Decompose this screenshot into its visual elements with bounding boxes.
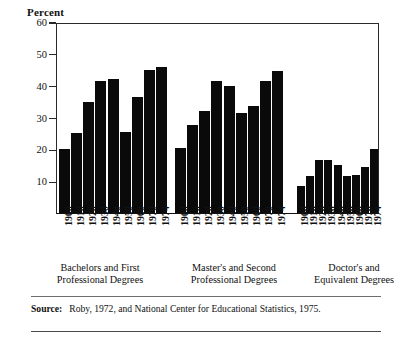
- bar: [370, 149, 378, 213]
- group-caption-2: Master's and SecondProfessional Degrees: [158, 262, 310, 287]
- bar: [248, 106, 259, 213]
- x-tick-label-cell: 1974: [369, 215, 377, 259]
- x-tick-label-cell: 1960: [351, 215, 359, 259]
- bar: [59, 149, 70, 213]
- plot-area: [56, 23, 379, 214]
- source-rule-top: [31, 296, 381, 297]
- group-caption-line2: Professional Degrees: [158, 274, 310, 286]
- x-tick-label-cell: 1950: [235, 215, 246, 259]
- bar: [120, 132, 131, 213]
- bars-container: [57, 24, 378, 213]
- x-tick-label-cell: 1960: [247, 215, 258, 259]
- figure-chart-percent-degrees: Percent 102030405060 1900191019201930194…: [0, 0, 403, 338]
- bar: [95, 81, 106, 213]
- y-tick-label: 60: [37, 16, 48, 29]
- x-tick-label: 1974: [161, 206, 171, 226]
- bar-group-3: [297, 24, 378, 213]
- y-tick-label: 20: [37, 143, 48, 156]
- bar: [236, 113, 247, 213]
- source-label: Source:: [31, 303, 62, 314]
- bar: [260, 81, 271, 213]
- group-captions: Bachelors and FirstProfessional DegreesM…: [30, 262, 385, 290]
- x-tick-label-cell: 1920: [82, 215, 93, 259]
- source-rule-bottom: [31, 331, 381, 332]
- bar-group-1: [59, 24, 167, 213]
- y-tick-mark: [49, 182, 56, 183]
- bar: [224, 86, 235, 213]
- y-tick-mark: [49, 54, 56, 55]
- x-tick-label-cell: 1900: [58, 215, 69, 259]
- x-tick-label-cell: 1930: [210, 215, 221, 259]
- x-tick-label-cell: 1900: [174, 215, 185, 259]
- x-tick-label-cell: 1900: [296, 215, 304, 259]
- bar: [156, 67, 167, 213]
- group-caption-line1: Bachelors and First: [30, 262, 170, 274]
- x-tick-label-cell: 1940: [107, 215, 118, 259]
- x-tick-label-cell: 1930: [94, 215, 105, 259]
- y-axis: 102030405060: [0, 23, 56, 214]
- y-tick-label: 10: [37, 175, 48, 188]
- bar-group-2: [175, 24, 283, 213]
- x-tick-label-cell: 1910: [305, 215, 313, 259]
- bar: [175, 148, 186, 213]
- bar: [187, 125, 198, 213]
- group-caption-line2: Professional Degrees: [30, 274, 170, 286]
- y-tick-mark: [49, 118, 56, 119]
- x-label-group-2: 190019101920193019401950196019701974: [174, 215, 282, 259]
- group-caption-line1: Doctor's and: [298, 262, 403, 274]
- x-axis-year-labels: 1900191019201930194019501960197019741900…: [56, 215, 379, 259]
- x-tick-label-cell: 1910: [186, 215, 197, 259]
- source-text: Roby, 1972, and National Center for Educ…: [69, 303, 320, 314]
- x-tick-label-cell: 1940: [333, 215, 341, 259]
- bar: [272, 71, 283, 213]
- x-tick-label-cell: 1920: [198, 215, 209, 259]
- x-label-group-3: 190019101920193019401950196019701974: [296, 215, 377, 259]
- x-tick-label-cell: 1970: [143, 215, 154, 259]
- x-tick-label-cell: 1970: [259, 215, 270, 259]
- y-tick-label: 30: [37, 112, 48, 125]
- group-caption-line1: Master's and Second: [158, 262, 310, 274]
- bar: [132, 97, 143, 213]
- x-tick-label-cell: 1950: [119, 215, 130, 259]
- y-tick-mark: [49, 150, 56, 151]
- y-tick-mark: [49, 22, 56, 23]
- x-tick-label-cell: 1950: [342, 215, 350, 259]
- x-tick-label: 1974: [373, 206, 383, 226]
- source-note: Source:Roby, 1972, and National Center f…: [31, 303, 383, 315]
- x-tick-label-cell: 1920: [314, 215, 322, 259]
- x-label-group-1: 190019101920193019401950196019701974: [58, 215, 166, 259]
- x-tick-label-cell: 1940: [223, 215, 234, 259]
- bar: [199, 111, 210, 213]
- x-tick-label: 1974: [277, 206, 287, 226]
- bar: [71, 133, 82, 213]
- bar: [211, 81, 222, 213]
- group-caption-3: Doctor's andEquivalent Degrees: [298, 262, 403, 287]
- group-caption-line2: Equivalent Degrees: [298, 274, 403, 286]
- y-tick-label: 50: [37, 48, 48, 61]
- group-caption-1: Bachelors and FirstProfessional Degrees: [30, 262, 170, 287]
- bar: [108, 79, 119, 213]
- y-tick-label: 40: [37, 80, 48, 93]
- x-tick-label-cell: 1970: [360, 215, 368, 259]
- x-tick-label-cell: 1930: [323, 215, 331, 259]
- bar: [83, 102, 94, 213]
- bar: [144, 70, 155, 213]
- y-tick-mark: [49, 86, 56, 87]
- x-tick-label-cell: 1960: [131, 215, 142, 259]
- x-tick-label-cell: 1910: [70, 215, 81, 259]
- x-tick-label-cell: 1974: [155, 215, 166, 259]
- x-tick-label-cell: 1974: [271, 215, 282, 259]
